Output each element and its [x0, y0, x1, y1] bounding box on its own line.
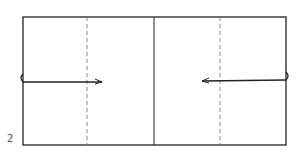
- step-number: 2: [7, 133, 13, 144]
- diagram-canvas: [0, 0, 303, 154]
